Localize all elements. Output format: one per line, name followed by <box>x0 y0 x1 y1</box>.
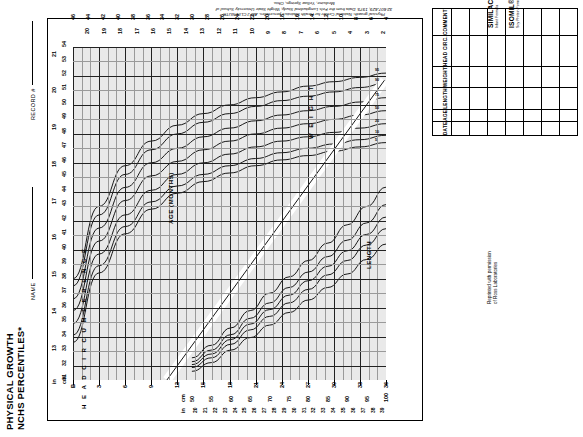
tick-mark-age <box>177 380 178 385</box>
table-cell[interactable] <box>560 36 578 67</box>
table-row[interactable] <box>488 9 506 136</box>
table-cell[interactable] <box>524 9 542 36</box>
gridline-horizontal <box>73 206 386 207</box>
table-cell[interactable] <box>470 66 488 87</box>
table-cell[interactable] <box>470 88 488 110</box>
tick-mark-age <box>308 380 309 385</box>
tick-label-weight-lb: 26 <box>219 20 225 26</box>
gridline-horizontal <box>73 119 386 120</box>
record-input[interactable] <box>32 21 33 85</box>
table-cell[interactable] <box>524 109 542 121</box>
percentile-label: 5 <box>375 138 377 142</box>
tick-label-weight-lb: 12 <box>323 20 329 26</box>
axis-unit-in: in <box>51 384 56 390</box>
gridline-vertical <box>230 47 231 380</box>
gridline-horizontal <box>73 366 386 367</box>
gridline-vertical <box>351 47 352 380</box>
tick-label-head-circumference-cm: 32 <box>61 366 67 372</box>
tick-mark-age <box>73 380 74 385</box>
gridline-vertical <box>195 47 196 380</box>
table-cell[interactable] <box>542 66 560 87</box>
table-cell[interactable] <box>470 109 488 121</box>
table-cell[interactable] <box>470 36 488 67</box>
tick-label-head-circumference-cm: 48 <box>61 134 67 140</box>
tick-label-length-in: 36 <box>350 413 356 419</box>
table-cell[interactable] <box>452 121 470 135</box>
table-cell[interactable] <box>560 66 578 87</box>
table-cell[interactable] <box>560 121 578 135</box>
table-cell[interactable] <box>452 36 470 67</box>
axis-unit-cm: cm <box>61 384 69 390</box>
table-cell[interactable] <box>470 121 488 135</box>
tick-mark-age <box>230 380 231 385</box>
table-cell[interactable] <box>506 9 524 36</box>
table-cell[interactable] <box>524 66 542 87</box>
percentile-label: 95 <box>375 68 379 72</box>
table-row[interactable] <box>506 9 524 136</box>
table-cell[interactable] <box>452 66 470 87</box>
table-cell[interactable] <box>488 36 506 67</box>
tick-label-weight-lb: 38 <box>130 20 136 26</box>
table-row[interactable] <box>542 9 560 136</box>
tick-label-length-in: 27 <box>261 413 267 419</box>
growth-chart: 4681012141618202224262830323436384042444… <box>47 18 423 421</box>
table-cell[interactable] <box>542 36 560 67</box>
table-cell[interactable] <box>488 66 506 87</box>
tick-mark-age <box>99 380 100 385</box>
table-cell[interactable] <box>506 109 524 121</box>
table-row[interactable] <box>470 9 488 136</box>
table-cell[interactable] <box>488 9 506 36</box>
tick-label-age: 33 <box>357 388 363 394</box>
table-cell[interactable] <box>506 36 524 67</box>
tick-label-head-circumference-in: 13 <box>51 351 57 357</box>
table-cell[interactable] <box>488 88 506 110</box>
table-header-date: DATE <box>433 121 452 135</box>
gridline-horizontal <box>73 76 386 77</box>
table-header-age: AGE <box>433 109 452 121</box>
table-cell[interactable] <box>524 121 542 135</box>
table-cell[interactable] <box>524 88 542 110</box>
table-cell[interactable] <box>542 109 560 121</box>
name-input[interactable] <box>32 188 33 280</box>
record-table-grid[interactable]: DATEAGELENGTHWEIGHTHEAD CIRC.COMMENT <box>432 8 578 136</box>
table-cell[interactable] <box>542 121 560 135</box>
table-cell[interactable] <box>560 88 578 110</box>
table-cell[interactable] <box>542 88 560 110</box>
table-cell[interactable] <box>506 88 524 110</box>
tick-mark-age <box>256 380 257 385</box>
table-cell[interactable] <box>560 9 578 36</box>
page-title: PHYSICAL GROWTH NCHS PERCENTILES* <box>4 430 107 437</box>
table-cell[interactable] <box>506 66 524 87</box>
table-header-comment: COMMENT <box>433 9 452 36</box>
tick-label-weight-lb: 46 <box>70 20 76 26</box>
table-cell[interactable] <box>506 121 524 135</box>
gridline-vertical <box>377 47 378 380</box>
tick-label-weight-lb: 36 <box>145 20 151 26</box>
table-cell[interactable] <box>452 88 470 110</box>
tick-label-weight-kg: 2 <box>380 34 383 40</box>
tick-label-weight-lb: 32 <box>174 20 180 26</box>
tick-label-head-circumference-cm: 33 <box>61 351 67 357</box>
table-cell[interactable] <box>488 121 506 135</box>
gridline-horizontal <box>73 148 386 149</box>
table-row[interactable] <box>452 9 470 136</box>
table-cell[interactable] <box>524 36 542 67</box>
title-line-2: NCHS PERCENTILES* <box>15 327 26 430</box>
tick-label-weight-kg: 15 <box>166 34 172 40</box>
table-cell[interactable] <box>452 9 470 36</box>
gridline-horizontal <box>73 279 386 280</box>
tick-label-length-in: 34 <box>330 413 336 419</box>
table-cell[interactable] <box>560 109 578 121</box>
tick-label-head-circumference-cm: 47 <box>61 148 67 154</box>
gridline-vertical <box>212 47 213 380</box>
table-cell[interactable] <box>488 109 506 121</box>
table-cell[interactable] <box>542 9 560 36</box>
tick-label-weight-kg: 13 <box>199 34 205 40</box>
tick-label-length-in: 29 <box>281 413 287 419</box>
table-row[interactable] <box>524 9 542 136</box>
table-row[interactable] <box>560 9 578 136</box>
table-cell[interactable] <box>452 109 470 121</box>
table-cell[interactable] <box>470 9 488 36</box>
gridline-vertical <box>238 47 239 380</box>
record-table[interactable]: DATEAGELENGTHWEIGHTHEAD CIRC.COMMENT <box>432 136 472 426</box>
